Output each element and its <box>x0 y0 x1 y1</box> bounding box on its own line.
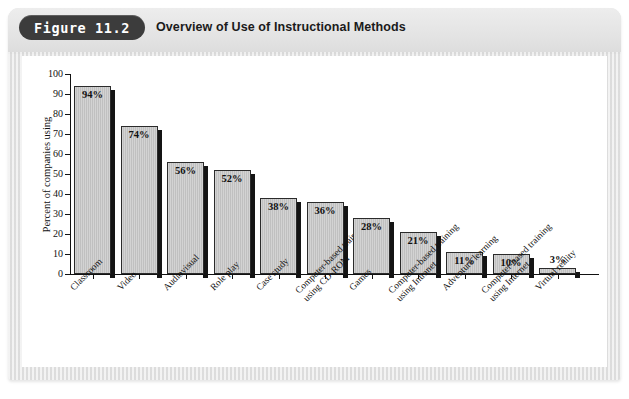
figure-number-label: Figure 11.2 <box>34 20 130 36</box>
bar-value-label: 28% <box>353 221 390 232</box>
bar <box>214 170 251 274</box>
figure-header: Figure 11.2 Overview of Use of Instructi… <box>8 8 621 48</box>
bar-chart-plot: Percent of companies using 0102030405060… <box>22 56 607 367</box>
y-axis-tick-label-wrap: 30 <box>22 209 63 219</box>
x-axis-label-line: Games <box>347 267 373 293</box>
bar-value-label: 56% <box>167 165 204 176</box>
y-axis-tick <box>65 154 70 155</box>
y-axis-tick-label: 100 <box>23 69 63 79</box>
x-axis-category-label: Video <box>115 269 139 293</box>
bar-value-label: 38% <box>260 201 297 212</box>
figure-screenshot: Figure 11.2 Overview of Use of Instructi… <box>0 0 629 399</box>
bar-value-label: 52% <box>214 173 251 184</box>
y-axis-tick <box>65 74 70 75</box>
y-axis-tick-label-wrap: 80 <box>22 109 63 119</box>
y-axis-tick-label: 60 <box>23 149 63 159</box>
y-axis-tick-label-wrap: 70 <box>22 129 63 139</box>
y-axis-tick-label: 0 <box>23 269 63 279</box>
x-axis-category-label: Games <box>347 267 373 293</box>
y-axis-tick-label-wrap: 90 <box>22 89 63 99</box>
y-axis-tick-label: 90 <box>23 89 63 99</box>
y-axis-tick-label: 20 <box>23 229 63 239</box>
bar-value-label: 94% <box>74 89 111 100</box>
y-axis-tick-label-wrap: 100 <box>22 69 63 79</box>
y-axis-tick-label-wrap: 50 <box>22 169 63 179</box>
y-axis-tick-label: 40 <box>23 189 63 199</box>
chart-panel: Percent of companies using 0102030405060… <box>22 56 607 367</box>
figure-title: Overview of Use of Instructional Methods <box>156 20 406 34</box>
y-axis-tick <box>65 94 70 95</box>
bar-value-label: 74% <box>121 129 158 140</box>
y-axis-tick-label: 10 <box>23 249 63 259</box>
y-axis-tick-label-wrap: 0 <box>22 269 63 279</box>
x-axis-tick <box>139 275 140 279</box>
y-axis-tick <box>65 254 70 255</box>
y-axis-tick <box>65 214 70 215</box>
bar-value-label: 36% <box>307 205 344 216</box>
y-axis-tick-label: 30 <box>23 209 63 219</box>
y-axis-tick-label: 50 <box>23 169 63 179</box>
y-axis-tick-label-wrap: 60 <box>22 149 63 159</box>
y-axis-tick-label-wrap: 20 <box>22 229 63 239</box>
y-axis-tick <box>65 234 70 235</box>
figure-frame: Figure 11.2 Overview of Use of Instructi… <box>8 8 621 380</box>
y-axis-tick <box>65 114 70 115</box>
y-axis-tick <box>65 134 70 135</box>
y-axis-tick-label-wrap: 40 <box>22 189 63 199</box>
y-axis-tick-label: 70 <box>23 129 63 139</box>
figure-number-badge: Figure 11.2 <box>19 15 145 40</box>
x-axis-label-line: Video <box>115 269 138 292</box>
y-axis-tick <box>65 194 70 195</box>
y-axis-tick <box>65 274 70 275</box>
y-axis-tick-label-wrap: 10 <box>22 249 63 259</box>
bar <box>121 126 158 274</box>
y-axis-tick-label: 80 <box>23 109 63 119</box>
bar <box>74 86 111 274</box>
y-axis-line <box>70 74 71 275</box>
y-axis-tick <box>65 174 70 175</box>
